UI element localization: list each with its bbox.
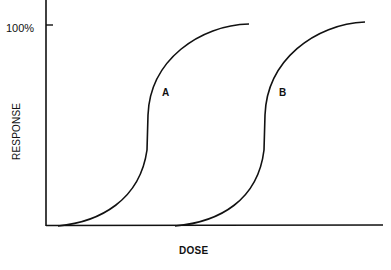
y-tick-label-100: 100% [6,22,34,34]
dose-response-chart [0,0,391,270]
curve-b-label: B [279,87,286,98]
x-axis [46,225,383,226]
y-axis-label: RESPONSE [11,103,22,160]
x-axis-label: DOSE [179,245,209,256]
curve-a-label: A [162,87,169,98]
curve-b [175,22,365,226]
curve-a [58,24,249,226]
